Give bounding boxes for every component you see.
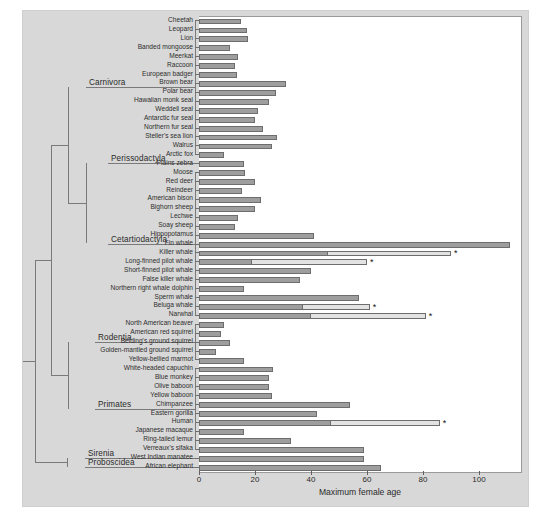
bar-segment-reproductive: [199, 393, 272, 399]
bar-segment-reproductive: [199, 277, 300, 283]
bar-segment-reproductive: [199, 331, 221, 337]
species-label: Golden-mantled ground squirrel: [100, 346, 193, 355]
bar: [199, 384, 269, 390]
bar-segment-reproductive: [199, 375, 269, 381]
bar-segment-reproductive: [199, 206, 255, 212]
bar: [199, 367, 273, 373]
bar: [199, 313, 426, 319]
bar: [199, 19, 241, 25]
figure-panel: CarnivoraPerissodactylaCetartiodactylaRo…: [22, 10, 529, 507]
bar: [199, 295, 359, 301]
species-label: Plains zebra: [157, 159, 193, 168]
species-label: Soay sheep: [158, 221, 193, 230]
bar: [199, 117, 255, 123]
bar-segment-reproductive: [199, 420, 331, 426]
bar: [199, 72, 237, 78]
bar: [199, 135, 277, 141]
species-label: American red squirrel: [130, 328, 193, 337]
bar: [199, 259, 367, 265]
species-label: Lion: [181, 34, 193, 43]
species-label: Beluga whale: [153, 301, 193, 310]
species-label: Short-finned pilot whale: [124, 266, 193, 275]
bar-segment-reproductive: [199, 367, 273, 373]
bar-segment-reproductive: [199, 170, 245, 176]
x-axis-tick-label: 40: [307, 475, 316, 484]
species-label: Hawaiian monk seal: [134, 96, 193, 105]
bar: [199, 465, 381, 471]
bar: [199, 286, 244, 292]
species-label: Narwhal: [169, 310, 193, 319]
species-label: Olive baboon: [154, 382, 193, 391]
bar: [199, 28, 247, 34]
bar: [199, 224, 235, 230]
bar-segment-reproductive: [199, 402, 350, 408]
bar-segment-reproductive: [199, 259, 252, 265]
bar-segment-reproductive: [199, 36, 248, 42]
bar: [199, 358, 244, 364]
bar: [199, 126, 263, 132]
bar-rows: *****: [199, 17, 521, 472]
bar: [199, 420, 440, 426]
x-axis: Maximum female age 020406080100: [199, 471, 521, 506]
bar-segment-reproductive: [199, 438, 291, 444]
species-label: False killer whale: [142, 275, 193, 284]
species-label: Verreaux's sifaka: [143, 444, 193, 453]
species-label: Banded mongoose: [138, 43, 193, 52]
bar: [199, 152, 224, 158]
bar-segment-postreproductive: [252, 259, 367, 265]
species-label-column: CheetahLeopardLionBanded mongooseMeerkat…: [23, 16, 199, 471]
bar-segment-postreproductive: [311, 313, 426, 319]
bar-segment-reproductive: [199, 161, 244, 167]
species-label: Yellow baboon: [150, 391, 193, 400]
bar: [199, 188, 242, 194]
bar-segment-reproductive: [199, 126, 263, 132]
bar-segment-reproductive: [199, 268, 311, 274]
species-label: Leopard: [169, 25, 193, 34]
bar-segment-reproductive: [199, 358, 244, 364]
bar-segment-reproductive: [199, 108, 258, 114]
species-label: Walrus: [173, 141, 193, 150]
bar: [199, 206, 255, 212]
species-label: Brown bear: [159, 78, 193, 87]
bar: [199, 438, 291, 444]
species-label: Antarctic fur seal: [144, 114, 193, 123]
species-label: Ring-tailed lemur: [143, 435, 193, 444]
bar-segment-reproductive: [199, 286, 244, 292]
species-label: Sperm whale: [155, 293, 193, 302]
bar-segment-reproductive: [199, 322, 224, 328]
species-label: Blue monkey: [155, 373, 193, 382]
species-label: Bighorn sheep: [150, 203, 193, 212]
significance-asterisk: *: [454, 249, 458, 258]
bar-segment-reproductive: [199, 152, 224, 158]
species-label: Eastern gorilla: [151, 409, 193, 418]
bar: [199, 340, 230, 346]
species-label: Steller's sea lion: [145, 132, 193, 141]
bar: [199, 277, 300, 283]
bar: [199, 268, 311, 274]
bar: [199, 251, 451, 257]
species-label: Meerkat: [169, 52, 193, 61]
bar-segment-reproductive: [199, 340, 230, 346]
bar: [199, 322, 224, 328]
species-label: West Indian manatee: [131, 453, 193, 462]
bar: [199, 447, 364, 453]
species-label: Hippopotamus: [150, 230, 193, 239]
species-label: White-headed capuchin: [124, 364, 193, 373]
species-label: North American beaver: [126, 319, 193, 328]
species-label: Long-finned pilot whale: [125, 257, 193, 266]
species-label: Fin whale: [165, 239, 193, 248]
bar: [199, 54, 238, 60]
species-label: American bison: [148, 194, 193, 203]
bar-segment-postreproductive: [303, 304, 370, 310]
species-label: Human: [172, 417, 193, 426]
x-axis-title: Maximum female age: [199, 487, 521, 497]
species-label: Moose: [173, 168, 193, 177]
bar-segment-reproductive: [199, 63, 235, 69]
bar: [199, 99, 269, 105]
bar-segment-reproductive: [199, 411, 317, 417]
bar-segment-reproductive: [199, 215, 238, 221]
species-label: Red deer: [166, 177, 193, 186]
bar-segment-reproductive: [199, 447, 364, 453]
species-label: Arctic fox: [166, 150, 193, 159]
bar: [199, 233, 314, 239]
